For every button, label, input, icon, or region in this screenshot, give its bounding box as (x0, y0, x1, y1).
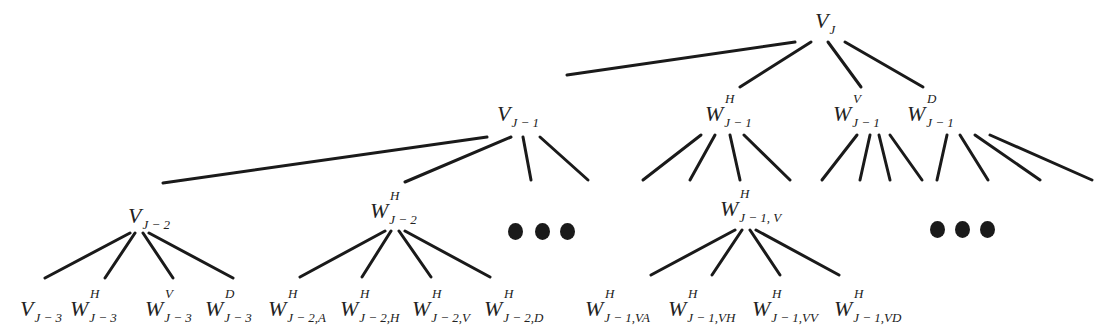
node-superscript: H (90, 287, 99, 300)
node-symbol: V (497, 101, 510, 126)
tree-edge (879, 135, 890, 180)
node-superscript: H (605, 287, 614, 300)
node-subscript: J − 3 (34, 310, 62, 325)
ellipsis-dot-icon (535, 223, 550, 240)
node-symbol: W (834, 296, 852, 321)
tree-edge (744, 135, 790, 180)
tree-edge (163, 137, 487, 183)
tree-edge (149, 233, 233, 278)
node-symbol: W (752, 296, 770, 321)
node-symbol: W (668, 296, 686, 321)
node-superscript: H (288, 287, 297, 300)
tree-edge (405, 137, 511, 182)
tree-edge (362, 231, 391, 277)
node-superscript: H (504, 287, 513, 300)
node-symbol: W (907, 101, 925, 126)
node-symbol: W (268, 296, 286, 321)
tree-edge (405, 231, 490, 277)
tree-edge (822, 135, 857, 180)
node-superscript: D (927, 92, 936, 105)
node-v-j-2: VJ − 2 (128, 205, 170, 231)
node-w-h-j-1: WHJ − 1 (705, 103, 752, 129)
node-w-d-j-3: WDJ − 3 (205, 298, 252, 324)
node-subscript: J − 2 (142, 217, 170, 232)
node-superscript: H (432, 287, 441, 300)
tree-edge (567, 42, 795, 75)
node-subscript: J − 3 (89, 310, 117, 325)
node-symbol: W (833, 101, 851, 126)
node-w-v-j-3: WVJ − 3 (145, 298, 192, 324)
ellipsis-dot-icon (955, 221, 970, 238)
tree-edges (0, 0, 1113, 333)
node-subscript: J − 1,VD (853, 310, 901, 325)
node-superscript: H (688, 287, 697, 300)
node-w-h-j-2-a: WHJ − 2,A (268, 298, 326, 324)
node-v-j-3: VJ − 3 (20, 298, 62, 324)
node-subscript: J − 2,A (287, 310, 326, 325)
node-w-v-j-1: WVJ − 1 (833, 103, 880, 129)
tree-edge (756, 230, 839, 275)
node-subscript: J − 3 (224, 310, 252, 325)
node-w-h-j-1-vh: WHJ − 1,VH (668, 298, 735, 324)
node-subscript: J − 1,VA (604, 310, 650, 325)
node-w-h-j-2-h: WHJ − 2,H (340, 298, 400, 324)
node-root: VJ (815, 10, 835, 36)
node-symbol: W (585, 296, 603, 321)
node-superscript: H (772, 287, 781, 300)
node-superscript: D (225, 287, 234, 300)
node-superscript: V (853, 92, 861, 105)
ellipsis-dot-icon (980, 221, 995, 238)
node-superscript: H (725, 92, 734, 105)
node-subscript: J − 2 (389, 212, 417, 227)
node-symbol: W (370, 198, 388, 223)
node-symbol: W (705, 101, 723, 126)
node-subscript: J − 3 (164, 310, 192, 325)
node-w-h-j-2-v: WHJ − 2,V (412, 298, 470, 324)
node-symbol: W (205, 296, 223, 321)
node-superscript: V (165, 287, 173, 300)
node-symbol: W (484, 296, 502, 321)
node-symbol: W (340, 296, 358, 321)
tree-edge (45, 233, 130, 278)
node-superscript: H (360, 287, 369, 300)
node-w-h-j-2-d: WHJ − 2,D (484, 298, 544, 324)
node-symbol: W (412, 296, 430, 321)
tree-edge (860, 135, 870, 180)
node-subscript: J − 2,D (503, 310, 543, 325)
node-symbol: W (70, 296, 88, 321)
node-symbol: V (128, 203, 141, 228)
tree-edge (750, 230, 780, 275)
node-symbol: V (20, 296, 33, 321)
node-subscript: J − 1 (926, 115, 954, 130)
node-w-h-j-1-vv: WHJ − 1,VV (752, 298, 818, 324)
node-subscript: J − 1 (724, 115, 752, 130)
node-w-h-j-2: WHJ − 2 (370, 200, 417, 226)
tree-edge (890, 135, 922, 180)
node-superscript: H (740, 187, 749, 200)
wavelet-decomposition-tree: VJVJ − 1WHJ − 1WVJ − 1WDJ − 1VJ − 2WHJ −… (0, 0, 1113, 333)
tree-edge (540, 137, 588, 180)
node-subscript: J − 1, V (739, 210, 781, 225)
node-symbol: W (720, 196, 738, 221)
node-subscript: J − 1,VH (687, 310, 735, 325)
node-symbol: W (145, 296, 163, 321)
ellipsis-dot-icon (560, 223, 575, 240)
node-subscript: J (829, 22, 835, 37)
node-w-h-j-1-va: WHJ − 1,VA (585, 298, 650, 324)
tree-edge (651, 230, 735, 275)
ellipsis-dot-icon (930, 221, 945, 238)
tree-edge (143, 233, 173, 278)
node-subscript: J − 2,H (359, 310, 399, 325)
tree-edge (730, 135, 740, 180)
tree-edge (300, 231, 385, 277)
tree-edge (937, 135, 947, 180)
node-v-j-1: VJ − 1 (497, 103, 539, 129)
node-w-h-j-3: WHJ − 3 (70, 298, 117, 324)
node-w-h-j-1-v: WHJ − 1, V (720, 198, 781, 224)
tree-edge (712, 230, 742, 275)
tree-edge (523, 137, 531, 180)
node-w-d-j-1: WDJ − 1 (907, 103, 954, 129)
node-subscript: J − 1 (511, 115, 539, 130)
node-subscript: J − 2,V (431, 310, 470, 325)
node-superscript: H (854, 287, 863, 300)
